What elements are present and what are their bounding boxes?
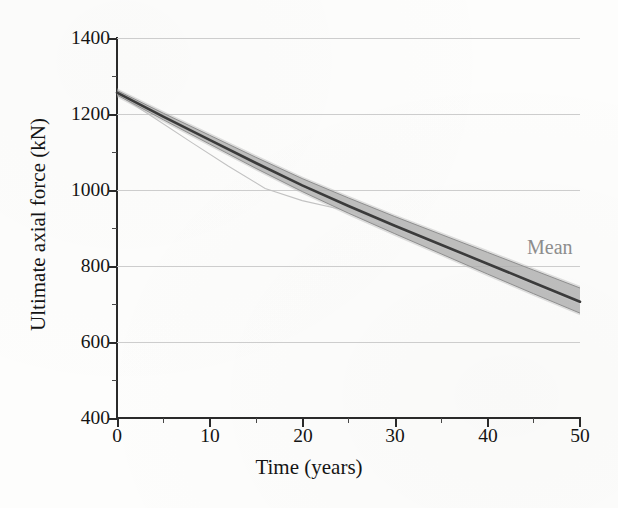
y-major-tick-400: [108, 418, 117, 420]
x-minor-tick-35: [441, 418, 442, 423]
y-tick-label-600: 600: [46, 331, 110, 353]
y-tick-label-1400: 1400: [46, 27, 110, 49]
y-axis-title-wrapper: Ultimate axial force (kN): [0, 0, 1, 1]
x-tick-label-50: 50: [560, 425, 600, 447]
x-minor-tick-5: [163, 418, 164, 423]
x-tick-label-20: 20: [283, 425, 323, 447]
mean-annotation-label: Mean: [527, 236, 573, 259]
x-minor-tick-25: [348, 418, 349, 423]
y-major-tick-1200: [108, 114, 117, 116]
y-tick-label-1000: 1000: [46, 179, 110, 201]
y-tick-label-1200: 1200: [46, 103, 110, 125]
x-tick-label-30: 30: [375, 425, 415, 447]
x-major-tick-0: [117, 418, 119, 427]
series-layer: [117, 38, 580, 418]
x-tick-label-0: 0: [97, 425, 137, 447]
y-major-tick-1000: [108, 190, 117, 192]
x-minor-tick-45: [533, 418, 534, 423]
x-major-tick-50: [579, 418, 581, 427]
band-upper-edge-line: [117, 90, 580, 288]
x-major-tick-20: [302, 418, 304, 427]
y-major-tick-1400: [108, 38, 117, 40]
x-major-tick-40: [487, 418, 489, 427]
x-tick-label-40: 40: [468, 425, 508, 447]
band-fill-soft-path: [117, 88, 580, 315]
realization-band: [117, 88, 580, 315]
y-major-tick-800: [108, 266, 117, 268]
y-major-tick-600: [108, 342, 117, 344]
x-minor-tick-15: [256, 418, 257, 423]
x-axis-title: Time (years): [0, 455, 618, 480]
x-major-tick-30: [395, 418, 397, 427]
plot-area: [117, 38, 580, 418]
x-major-tick-10: [209, 418, 211, 427]
y-tick-label-800: 800: [46, 255, 110, 277]
figure-canvas: Ultimate axial force (kN) 1400 1200 1000…: [0, 0, 618, 508]
x-tick-label-10: 10: [190, 425, 230, 447]
